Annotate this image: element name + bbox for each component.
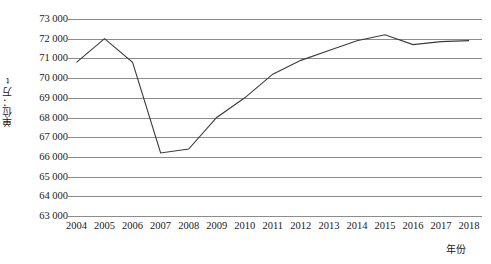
y-tick-label: 73 000 [20, 13, 68, 24]
y-tick-label: 71 000 [20, 52, 68, 63]
y-tick-label-text: 64 000 [20, 190, 68, 201]
y-tick-label-text: 68 000 [20, 112, 68, 123]
gridline [72, 216, 482, 217]
series-layer [72, 19, 482, 216]
y-tick-label-text: 66 000 [20, 151, 68, 162]
x-tick-label: 2018 [452, 220, 486, 232]
y-tick-label: 70 000 [20, 72, 68, 83]
y-tick-mark [68, 216, 72, 217]
y-tick-label-text: 69 000 [20, 92, 68, 103]
y-tick-label: 72 000 [20, 33, 68, 44]
y-axis-title: 单位：万t [2, 76, 18, 127]
y-tick-label: 69 000 [20, 92, 68, 103]
y-tick-label-text: 73 000 [20, 13, 68, 24]
x-axis-title: 年份 [446, 244, 466, 255]
y-tick-label: 66 000 [20, 151, 68, 162]
y-tick-label-text: 67 000 [20, 131, 68, 142]
y-tick-label-text: 72 000 [20, 33, 68, 44]
plot-area [72, 19, 482, 216]
y-tick-label-text: 65 000 [20, 171, 68, 182]
y-tick-label: 68 000 [20, 112, 68, 123]
line-chart: 单位：万t 73 00072 00071 00070 00069 00068 0… [0, 0, 491, 264]
y-tick-label-text: 71 000 [20, 52, 68, 63]
y-tick-label: 64 000 [20, 190, 68, 201]
y-tick-label-text: 70 000 [20, 72, 68, 83]
data-line-production [76, 35, 469, 153]
y-tick-label: 67 000 [20, 131, 68, 142]
y-tick-label: 65 000 [20, 171, 68, 182]
